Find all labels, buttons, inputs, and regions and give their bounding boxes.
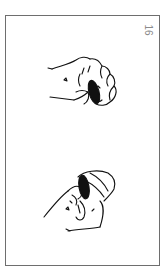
hand-with-coin-icon [42, 165, 124, 237]
page-number: 16 [142, 21, 154, 39]
hand-with-coin-icon [44, 52, 124, 112]
